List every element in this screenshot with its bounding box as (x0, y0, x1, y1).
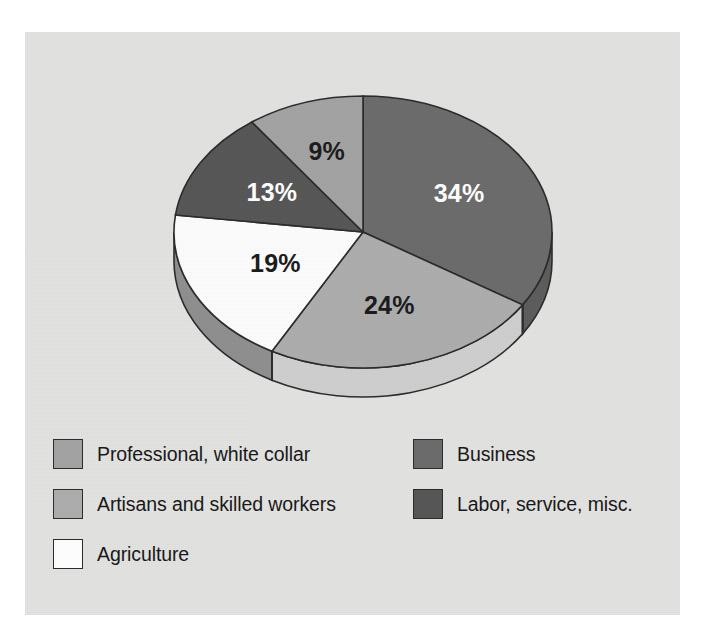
legend-swatch-agriculture (53, 539, 83, 569)
legend-item-business[interactable]: Business (413, 432, 673, 476)
legend-column-right: Business Labor, service, misc. (413, 432, 673, 532)
legend-swatch-business (413, 439, 443, 469)
pie-chart: 34%24%19%13%9% (25, 32, 680, 432)
legend-column-left: Professional, white collar Artisans and … (53, 432, 403, 582)
legend-label-business: Business (457, 443, 535, 466)
chart-panel: 34%24%19%13%9% Professional, white colla… (25, 32, 680, 615)
chart-legend: Professional, white collar Artisans and … (53, 432, 673, 592)
legend-label-professional: Professional, white collar (97, 443, 310, 466)
pie-label-labor: 13% (247, 178, 298, 206)
pie-top-face (174, 96, 552, 368)
pie-label-professional: 9% (309, 137, 346, 165)
pie-label-artisans: 24% (364, 291, 415, 319)
legend-item-professional[interactable]: Professional, white collar (53, 432, 403, 476)
legend-item-agriculture[interactable]: Agriculture (53, 532, 403, 576)
legend-label-artisans: Artisans and skilled workers (97, 493, 336, 516)
legend-item-artisans[interactable]: Artisans and skilled workers (53, 482, 403, 526)
legend-label-agriculture: Agriculture (97, 543, 189, 566)
pie-label-agriculture: 19% (250, 249, 301, 277)
legend-swatch-labor (413, 489, 443, 519)
legend-item-labor[interactable]: Labor, service, misc. (413, 482, 673, 526)
legend-swatch-artisans (53, 489, 83, 519)
pie-label-business: 34% (434, 179, 485, 207)
figure-root: 34%24%19%13%9% Professional, white colla… (0, 0, 701, 637)
legend-label-labor: Labor, service, misc. (457, 493, 633, 516)
legend-swatch-professional (53, 439, 83, 469)
pie-chart-svg: 34%24%19%13%9% (25, 32, 680, 432)
